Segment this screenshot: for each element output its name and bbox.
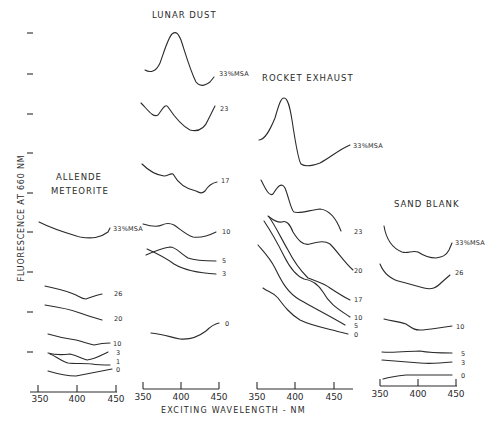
curve-label: 10 — [354, 314, 363, 322]
curve-10 — [384, 319, 452, 330]
svg-text:400: 400 — [172, 392, 189, 402]
curve-0 — [48, 369, 112, 376]
curve-label: 0 — [354, 331, 358, 339]
panel-lunar-dust: LUNAR DUST 33%MSA 23 17 10 5 3 0 350 400… — [134, 10, 249, 402]
curve-5 — [382, 351, 452, 353]
curve-label: 10 — [113, 340, 122, 348]
curve-5 — [258, 245, 345, 325]
svg-text:400: 400 — [286, 392, 303, 402]
curve-label: 23 — [220, 105, 229, 113]
curve-label: 26 — [114, 290, 123, 298]
curve-label: 33%MSA — [113, 225, 143, 233]
svg-text:350: 350 — [248, 392, 265, 402]
svg-text:350: 350 — [31, 394, 48, 404]
curve-label: 1 — [116, 358, 120, 366]
panel-title-line2: METEORITE — [51, 186, 109, 196]
svg-text:450: 450 — [447, 389, 464, 399]
curve-label: 0 — [225, 320, 229, 328]
svg-text:450: 450 — [210, 392, 227, 402]
x-axis-panel1: 350 400 450 — [30, 385, 125, 404]
y-axis-label: FLUORESCENCE AT 660 NM — [17, 155, 26, 282]
svg-text:400: 400 — [68, 394, 85, 404]
curve-33msa — [259, 98, 350, 166]
curve-label: 5 — [461, 350, 465, 358]
curve-label: 3 — [116, 349, 120, 357]
curve-label: 33%MSA — [455, 239, 485, 247]
curve-label: 10 — [222, 228, 231, 236]
svg-text:350: 350 — [371, 389, 388, 399]
curve-label: 0 — [116, 366, 120, 374]
curve-3 — [382, 360, 452, 363]
curve-10 — [264, 221, 350, 317]
curve-label: 20 — [114, 315, 123, 323]
x-axis-panel3: 350 400 450 — [248, 382, 353, 402]
curve-33msa — [384, 226, 452, 258]
curve-26 — [45, 286, 102, 299]
curve-10 — [48, 334, 110, 345]
curve-label: 33%MSA — [219, 70, 249, 78]
curve-label: 20 — [354, 267, 363, 275]
curve-label: 23 — [354, 228, 363, 236]
curve-17 — [142, 164, 217, 193]
curve-label: 17 — [354, 296, 363, 304]
panel-title: ROCKET EXHAUST — [262, 73, 354, 83]
svg-text:400: 400 — [409, 389, 426, 399]
y-axis-ticks — [27, 33, 33, 352]
curve-label: 3 — [222, 270, 226, 278]
curve-0 — [151, 323, 219, 339]
panel-allende-meteorite: ALLENDE METEORITE 33%MSA 26 20 10 3 1 0 … — [30, 172, 143, 404]
curve-label: 5 — [354, 322, 358, 330]
curve-3 — [48, 352, 108, 360]
svg-text:450: 450 — [325, 392, 342, 402]
curve-label: 33%MSA — [353, 142, 383, 150]
curve-0 — [383, 375, 452, 379]
curve-label: 10 — [456, 323, 465, 331]
curve-label: 3 — [461, 359, 465, 367]
x-axis-label: EXCITING WAVELENGTH - NM — [161, 406, 306, 415]
curve-label: 17 — [221, 177, 230, 185]
curve-20 — [45, 305, 102, 320]
curve-33msa — [39, 222, 110, 238]
panel-sand-blank: SAND BLANK 33%MSA 26 10 5 3 0 350 400 45… — [371, 199, 485, 399]
fluorescence-figure: FLUORESCENCE AT 660 NM ALLENDE METEORITE… — [0, 0, 502, 428]
curve-33msa — [145, 33, 214, 86]
curve-26 — [380, 264, 450, 289]
curve-0 — [263, 288, 348, 334]
curve-label: 5 — [222, 257, 226, 265]
curve-label: 26 — [455, 269, 464, 277]
curve-17 — [269, 217, 350, 300]
panel-title: LUNAR DUST — [152, 10, 217, 20]
curve-20 — [268, 216, 353, 270]
x-axis-panel2: 350 400 450 — [134, 382, 227, 402]
curve-10 — [143, 224, 216, 238]
x-axis-panel4: 350 400 450 — [371, 379, 464, 399]
panel-title-line1: ALLENDE — [56, 172, 102, 182]
curve-23 — [141, 103, 215, 131]
panel-title: SAND BLANK — [394, 199, 459, 209]
curve-label: 0 — [461, 372, 465, 380]
svg-text:450: 450 — [107, 394, 124, 404]
panel-rocket-exhaust: ROCKET EXHAUST 33%MSA 23 20 17 10 5 0 35… — [248, 73, 383, 402]
svg-text:350: 350 — [134, 392, 151, 402]
